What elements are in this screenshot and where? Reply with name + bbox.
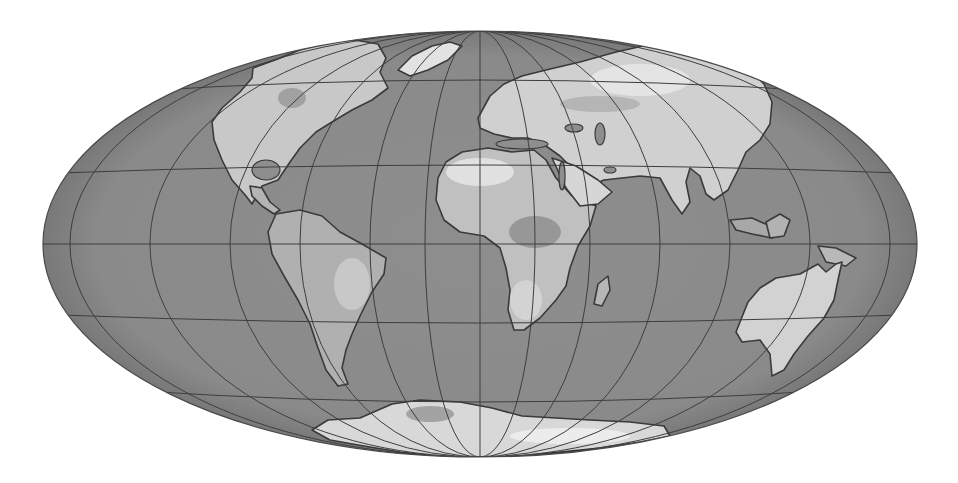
world-map-canvas — [0, 0, 958, 483]
world-map — [0, 0, 958, 483]
